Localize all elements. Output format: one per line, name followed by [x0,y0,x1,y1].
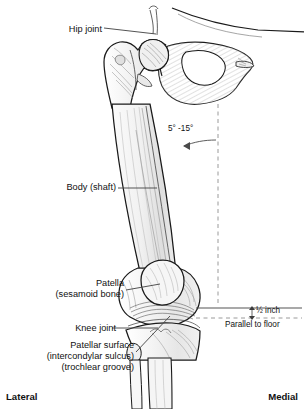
femur-anatomy-figure: Hip joint Body (shaft) Patella (sesamoid… [0,0,304,409]
tibia-fibula-group [126,319,200,409]
label-knee-joint: Knee joint [6,323,116,334]
label-patella: Patella (sesamoid bone) [6,278,124,300]
patella [141,260,184,305]
proximal-femur-group [104,6,169,108]
label-half-inch: ½ inch [256,306,302,316]
leader-hip-joint [104,28,156,34]
label-patella-line2: (sesamoid bone) [6,289,124,300]
label-patellar-surface-line1: Patellar surface [4,340,134,351]
label-patellar-surface: Patellar surface (intercondylar sulcus) … [4,340,134,374]
iliac-crest-curve [172,8,304,32]
ligament-wisp-tip [149,6,158,9]
label-patellar-surface-line3: (trochlear groove) [4,362,134,373]
measurement-group [183,104,302,320]
ligament-wisp [150,9,157,35]
angle-arrow-head [183,142,190,150]
tibial-shaft [148,358,172,409]
lesser-trochanter [137,74,152,87]
pelvic-brim-curve [178,14,262,37]
label-patellar-surface-line2: (intercondylar sulcus) [4,351,134,362]
distal-femur-group [119,260,200,326]
label-medial: Medial [228,391,298,402]
femoral-head [139,40,168,71]
label-body-shaft: Body (shaft) [6,182,116,193]
label-lateral: Lateral [6,391,76,402]
label-patella-line1: Patella [6,278,124,289]
label-shaft-angle: 5° -15° [168,124,216,134]
label-hip-joint: Hip joint [6,24,102,35]
label-parallel-to-floor: Parallel to floor [225,320,301,330]
pelvis-group [159,8,304,104]
